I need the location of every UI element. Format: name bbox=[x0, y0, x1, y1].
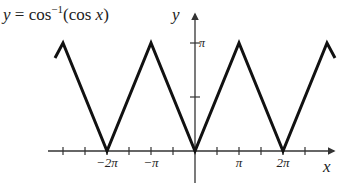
y-tick-label-pi: π bbox=[199, 36, 206, 50]
x-axis-label: x bbox=[322, 157, 331, 176]
x-tick-label-neg-2pi: −2π bbox=[96, 155, 118, 170]
graph-title: y = cos−1(cos x) bbox=[1, 3, 109, 24]
y-axis-label: y bbox=[170, 5, 180, 24]
x-tick-label-pi: π bbox=[236, 155, 243, 170]
x-tick-label-2pi: 2π bbox=[276, 155, 290, 170]
x-tick-label-neg-pi: −π bbox=[143, 155, 159, 170]
graph-canvas: y = cos−1(cos x) y x π −2π −π π 2π bbox=[0, 0, 346, 188]
title-superscript: −1 bbox=[51, 3, 63, 15]
